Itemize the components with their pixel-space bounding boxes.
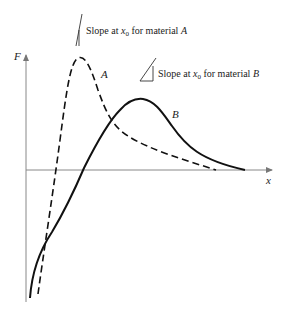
y-axis-label: F: [13, 50, 21, 62]
curve-a: [38, 57, 216, 294]
curve-a-label: A: [100, 68, 108, 80]
curve-b-label: B: [172, 108, 179, 120]
force-distance-diagram: F x A B Slope at x0 for material A Slope…: [0, 0, 292, 316]
slope-triangle-a-icon: [76, 14, 82, 46]
slope-triangle-b-icon: [140, 58, 156, 81]
slope-a-annotation: Slope at x0 for material A: [86, 25, 188, 38]
slope-b-annotation: Slope at x0 for material B: [158, 68, 259, 81]
x-axis-label: x: [265, 174, 271, 186]
